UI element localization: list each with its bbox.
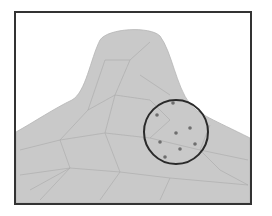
- sample-point: [178, 147, 182, 151]
- sample-point: [171, 101, 175, 105]
- mesh-surface-diagram: [0, 0, 272, 216]
- sample-point: [174, 131, 178, 135]
- sample-point: [155, 113, 159, 117]
- sample-point: [193, 142, 197, 146]
- sample-point: [158, 140, 162, 144]
- sample-point: [188, 126, 192, 130]
- sample-point: [163, 155, 167, 159]
